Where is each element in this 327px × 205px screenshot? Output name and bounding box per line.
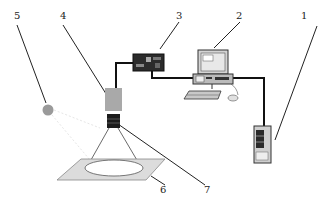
label-2: 2 xyxy=(236,11,242,21)
lens xyxy=(107,114,120,128)
label-7: 7 xyxy=(204,185,210,195)
cable-controller-computer xyxy=(152,71,196,78)
label-3: 3 xyxy=(176,11,182,21)
cable-controller-camera xyxy=(116,63,133,88)
computer-workstation xyxy=(184,50,238,101)
label-4: 4 xyxy=(60,11,66,21)
camera-body xyxy=(105,88,122,111)
label-6: 6 xyxy=(160,185,166,195)
cable-computer-tower xyxy=(233,78,264,126)
imaging-area xyxy=(85,160,143,176)
leader-3 xyxy=(160,22,179,49)
label-1: 1 xyxy=(301,11,307,21)
leader-5 xyxy=(17,25,46,103)
leader-4 xyxy=(63,25,108,97)
power-supply-tower xyxy=(254,126,271,163)
light-rays xyxy=(52,110,100,160)
diagram-canvas xyxy=(0,0,327,205)
label-5: 5 xyxy=(14,11,20,21)
leader-lines xyxy=(17,22,317,185)
leader-2 xyxy=(214,22,240,48)
mouse xyxy=(228,95,238,101)
light-source xyxy=(43,105,54,116)
leader-1 xyxy=(275,26,317,140)
controller-box xyxy=(133,54,164,71)
